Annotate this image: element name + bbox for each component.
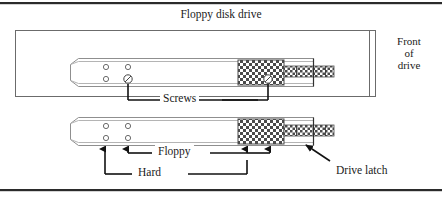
screw-hole xyxy=(103,64,108,69)
screw-hole xyxy=(103,135,108,140)
diagram-title: Floppy disk drive xyxy=(0,8,442,20)
screw-hole xyxy=(103,123,108,128)
front-of-drive-line-2: of xyxy=(381,48,437,60)
screw-fastened-icon xyxy=(264,75,272,83)
hard-callout-label: Hard xyxy=(135,166,164,178)
floppy-drive-rail-diagram: Floppy disk drive Front of drive Screws … xyxy=(0,0,442,205)
drive-latch-callout-label: Drive latch xyxy=(336,164,387,176)
screw-hole xyxy=(125,64,130,69)
screw-hole xyxy=(125,135,130,140)
upper-latch-strip xyxy=(284,66,334,77)
lower-latch-hatch xyxy=(238,119,284,144)
screws-callout-label: Screws xyxy=(160,92,199,104)
screw-fastened-icon xyxy=(124,75,132,83)
front-of-drive-line-3: drive xyxy=(381,60,437,72)
floppy-callout-leader xyxy=(128,149,270,153)
screw-hole xyxy=(125,123,130,128)
screw-hole xyxy=(103,76,108,81)
floppy-callout-label: Floppy xyxy=(155,145,194,157)
front-of-drive-note: Front of drive xyxy=(381,36,437,72)
lower-drive-rail xyxy=(71,118,335,146)
drive-latch-arrow xyxy=(306,145,330,161)
upper-drive-rail xyxy=(71,59,335,87)
lower-latch-strip xyxy=(284,125,334,136)
upper-latch-hatch xyxy=(238,60,284,85)
